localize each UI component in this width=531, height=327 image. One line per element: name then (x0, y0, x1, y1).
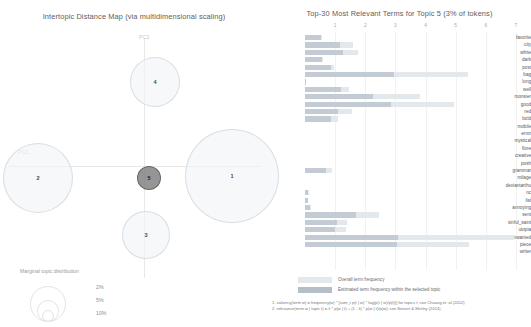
bar-row[interactable]: grammar (268, 167, 531, 174)
topic-circle-label: 5 (138, 175, 160, 181)
bar-estimated-frequency (305, 168, 326, 173)
bar-row[interactable]: unwanted (268, 234, 531, 241)
marginal-legend-pct-label: 5% (96, 297, 104, 303)
topic-circle-label: 4 (131, 79, 179, 85)
bar-rows: favoritecitywhitedarkpostbaglongwellmons… (268, 34, 531, 270)
bar-row[interactable]: white (268, 49, 531, 56)
term-label[interactable]: error (497, 130, 531, 137)
bar-row[interactable]: error (268, 130, 531, 137)
term-label[interactable]: sinful_saint (497, 219, 531, 226)
term-label[interactable]: city (497, 41, 531, 48)
bar-estimated-frequency (305, 116, 331, 121)
marginal-topic-distribution-legend: Marginal topic distribution 2%5%10% (14, 268, 134, 326)
term-label[interactable]: monster (497, 93, 531, 100)
bar-row[interactable]: posh (268, 160, 531, 167)
bar-estimated-frequency (305, 198, 308, 203)
estimated-frequency-swatch (298, 287, 332, 293)
topic-circle-label: 2 (4, 175, 72, 181)
chart-legend: Overall term frequency Estimated term fr… (298, 276, 531, 296)
bar-row[interactable]: well (268, 86, 531, 93)
term-label[interactable]: dark (497, 56, 531, 63)
term-label[interactable]: posh (497, 160, 531, 167)
topic-circle-3[interactable]: 3 (122, 211, 170, 259)
marginal-legend-pct-label: 2% (96, 284, 104, 290)
term-label[interactable]: favorite (497, 34, 531, 41)
term-label[interactable]: good (497, 101, 531, 108)
term-label[interactable]: list (497, 197, 531, 204)
term-label[interactable]: flore (497, 145, 531, 152)
bar-estimated-frequency (305, 235, 398, 240)
bar-row[interactable]: nc (268, 189, 531, 196)
bar-row[interactable]: mystical (268, 137, 531, 144)
bar-estimated-frequency (305, 79, 306, 84)
bar-estimated-frequency (305, 227, 335, 232)
topic-circle-2[interactable]: 2 (3, 143, 73, 213)
bar-row[interactable]: post (268, 64, 531, 71)
topic-circle-1[interactable]: 1 (185, 129, 279, 223)
term-label[interactable]: mystical (497, 137, 531, 144)
bar-row[interactable]: annoying (268, 204, 531, 211)
bar-row[interactable]: utopia (268, 226, 531, 233)
term-label[interactable]: annoying (497, 204, 531, 211)
x-tick-6: 6 (484, 23, 487, 28)
bar-row[interactable]: list (268, 197, 531, 204)
bar-row[interactable]: long (268, 78, 531, 85)
term-frequency-bar-chart[interactable]: 1234567 favoritecitywhitedarkpostbaglong… (268, 22, 531, 270)
bar-estimated-frequency (305, 50, 343, 55)
bar-row[interactable]: piece (268, 241, 531, 248)
bar-estimated-frequency (305, 72, 394, 77)
overall-frequency-label: Overall term frequency (338, 276, 384, 283)
term-label[interactable]: deviantarthu (497, 182, 531, 189)
bar-row[interactable]: milage (268, 174, 531, 181)
bar-row[interactable]: city (268, 41, 531, 48)
estimated-frequency-label: Estimated term frequency within the sele… (338, 286, 440, 293)
marginal-legend-title: Marginal topic distribution (20, 268, 79, 274)
pc2-axis-label: PC2 (139, 34, 150, 40)
x-tick-4: 4 (424, 23, 427, 28)
bar-row[interactable]: bag (268, 71, 531, 78)
bar-row[interactable]: writer (268, 248, 531, 255)
term-label[interactable]: white (497, 49, 531, 56)
topic-circle-4[interactable]: 4 (130, 57, 180, 107)
bar-row[interactable]: bold (268, 115, 531, 122)
topic-circle-5[interactable]: 5 (137, 166, 161, 190)
term-label[interactable]: well (497, 86, 531, 93)
bar-row[interactable]: deviantarthu (268, 182, 531, 189)
top-terms-panel: Top-30 Most Relevant Terms for Topic 5 (… (268, 0, 531, 327)
term-label[interactable]: red (497, 108, 531, 115)
term-label[interactable]: milage (497, 174, 531, 181)
bar-row[interactable]: red (268, 108, 531, 115)
bar-row[interactable]: dark (268, 56, 531, 63)
term-label[interactable]: creative (497, 152, 531, 159)
bar-estimated-frequency (305, 212, 356, 217)
term-label[interactable]: bold (497, 115, 531, 122)
bar-estimated-frequency (305, 94, 373, 99)
x-axis-tick-labels: 1234567 (268, 22, 531, 32)
term-label[interactable]: writer (497, 248, 531, 255)
right-panel-title: Top-30 Most Relevant Terms for Topic 5 (… (268, 9, 531, 18)
term-label[interactable]: post (497, 64, 531, 71)
term-label[interactable]: piece (497, 241, 531, 248)
term-label[interactable]: long (497, 78, 531, 85)
term-label[interactable]: utopia (497, 226, 531, 233)
bar-row[interactable]: sent (268, 211, 531, 218)
bar-row[interactable]: sinful_saint (268, 219, 531, 226)
bar-row[interactable]: creative (268, 152, 531, 159)
bar-row[interactable]: flore (268, 145, 531, 152)
bar-row[interactable]: good (268, 101, 531, 108)
bar-estimated-frequency (305, 87, 341, 92)
bar-row[interactable]: monster (268, 93, 531, 100)
term-label[interactable]: grammar (497, 167, 531, 174)
term-label[interactable]: sent (497, 211, 531, 218)
x-tick-7: 7 (515, 23, 518, 28)
term-label[interactable]: mobile (497, 123, 531, 130)
intertopic-scatter-plot[interactable]: PC2 PC1 12345 (0, 24, 268, 274)
term-label[interactable]: nc (497, 189, 531, 196)
left-panel-title: Intertopic Distance Map (via multidimens… (0, 12, 268, 21)
bar-estimated-frequency (305, 109, 338, 114)
bar-estimated-frequency (305, 42, 340, 47)
bar-row[interactable]: favorite (268, 34, 531, 41)
term-label[interactable]: bag (497, 71, 531, 78)
intertopic-distance-panel: Intertopic Distance Map (via multidimens… (0, 0, 268, 327)
bar-row[interactable]: mobile (268, 123, 531, 130)
